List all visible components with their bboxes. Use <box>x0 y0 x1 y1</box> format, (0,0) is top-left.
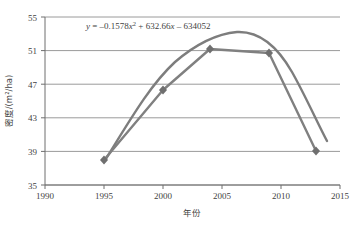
y-tick-label-51: 51 <box>28 46 37 56</box>
y-axis-title: 密度/(m²/ha) <box>4 75 14 128</box>
eq-minus: – <box>174 21 183 31</box>
x-tick-label-1990: 1990 <box>36 191 55 201</box>
eq-coef-b: 632.66 <box>146 21 171 31</box>
trendline-equation: y = –0.1578x2 + 632.66x – 634052 <box>85 20 210 31</box>
x-tick-label-2010: 2010 <box>272 191 291 201</box>
x-tick-label-2000: 2000 <box>154 191 173 201</box>
eq-plus: + <box>136 21 146 31</box>
chart-container: 55 51 47 43 39 35 1990 1995 2000 2005 20… <box>0 0 356 225</box>
y-tick-label-47: 47 <box>28 80 38 90</box>
eq-constant: 634052 <box>183 21 210 31</box>
eq-equals: = <box>90 21 100 31</box>
x-tick-label-1995: 1995 <box>95 191 114 201</box>
eq-coef-a: –0.1578 <box>99 21 130 31</box>
y-tick-label-39: 39 <box>28 147 38 157</box>
x-tick-label-2015: 2015 <box>331 191 350 201</box>
y-axis-ticks <box>41 17 45 185</box>
y-tick-label-55: 55 <box>28 13 38 23</box>
x-axis-title: 年份 <box>183 208 201 218</box>
x-tick-label-2005: 2005 <box>213 191 232 201</box>
y-tick-label-43: 43 <box>28 113 38 123</box>
y-tick-label-35: 35 <box>28 181 38 191</box>
plot-area-background <box>45 17 340 185</box>
x-axis-ticks <box>45 185 340 189</box>
chart-canvas: 55 51 47 43 39 35 1990 1995 2000 2005 20… <box>0 0 356 225</box>
